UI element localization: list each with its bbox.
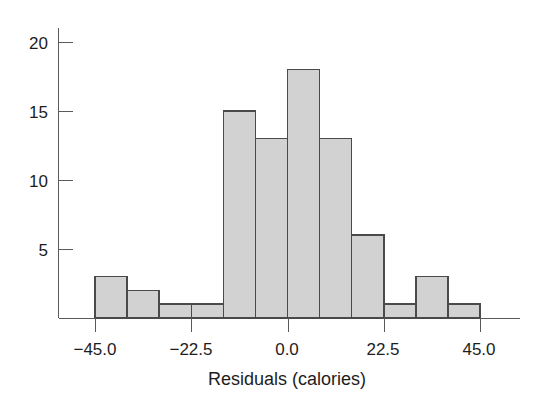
x-tick-label-neg22-5: −22.5 xyxy=(169,340,212,359)
x-tick-label-22-5: 22.5 xyxy=(366,340,399,359)
x-tick-label-zero: 0.0 xyxy=(275,340,299,359)
histogram-bar xyxy=(95,277,127,318)
histogram-bar xyxy=(352,235,384,318)
histogram-bar xyxy=(320,139,352,318)
histogram-figure: 20 15 10 5 −45.0 −22.5 0.0 22.5 45.0 Res… xyxy=(0,0,537,403)
x-tick-label-neg45: −45.0 xyxy=(73,340,116,359)
histogram-bar xyxy=(191,304,223,318)
histogram-bar xyxy=(159,304,191,318)
y-tick-label-20: 20 xyxy=(29,34,48,53)
y-tick-label-15: 15 xyxy=(29,103,48,122)
histogram-bar xyxy=(255,139,287,318)
histogram-bar xyxy=(223,111,255,318)
histogram-bar xyxy=(416,277,448,318)
histogram-canvas: 20 15 10 5 −45.0 −22.5 0.0 22.5 45.0 Res… xyxy=(0,0,537,403)
x-axis-title: Residuals (calories) xyxy=(208,369,366,389)
y-tick-label-10: 10 xyxy=(29,172,48,191)
y-tick-label-5: 5 xyxy=(39,241,48,260)
histogram-bar xyxy=(448,304,480,318)
histogram-bar xyxy=(288,70,320,318)
x-tick-label-45: 45.0 xyxy=(462,340,495,359)
histogram-bar xyxy=(127,290,159,318)
histogram-bar xyxy=(384,304,416,318)
